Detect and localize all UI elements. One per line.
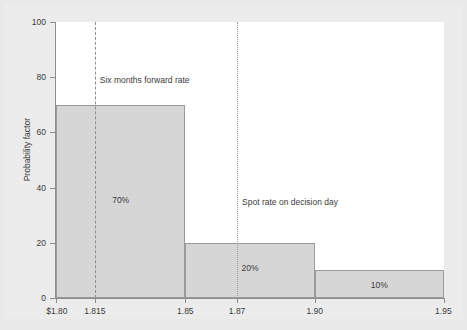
y-axis-title: Probability factor (22, 118, 32, 181)
x-tick-1.85 (185, 298, 186, 303)
reference-label-1: Six months forward rate (100, 75, 190, 85)
x-tick-1.80 (56, 298, 57, 303)
y-tick-label: 60 (37, 127, 46, 137)
x-tick-label: 1.85 (177, 306, 194, 316)
x-tick-label: 1.95 (435, 306, 452, 316)
reference-line-2 (237, 22, 238, 298)
x-tick-label: 1.90 (306, 306, 323, 316)
x-tick-label: 1.87 (229, 306, 246, 316)
chart-figure: Probability factor 100806040200 $1.801.8… (0, 0, 467, 330)
bar-value-label-3: 10% (371, 280, 388, 290)
bar-value-label-2: 20% (241, 263, 258, 273)
x-tick-1.90 (315, 298, 316, 303)
y-tick-80: 80 (50, 77, 56, 78)
x-tick-label: $1.80 (46, 306, 67, 316)
y-tick-label: 20 (37, 238, 46, 248)
y-tick-100: 100 (50, 22, 56, 23)
y-tick-label: 100 (32, 17, 46, 27)
y-tick-label: 80 (37, 72, 46, 82)
bar-value-label-1: 70% (112, 195, 129, 205)
x-tick-1.95 (444, 298, 445, 303)
plot-area: 100806040200 $1.801.8151.851.871.901.95 … (55, 22, 444, 299)
y-tick-label: 40 (37, 183, 46, 193)
x-tick-1.87 (237, 298, 238, 303)
x-tick-label: 1.815 (84, 306, 105, 316)
x-tick-1.815 (95, 298, 96, 303)
reference-label-2: Spot rate on decision day (242, 197, 338, 207)
y-tick-label: 0 (41, 293, 46, 303)
reference-line-1 (95, 22, 96, 298)
